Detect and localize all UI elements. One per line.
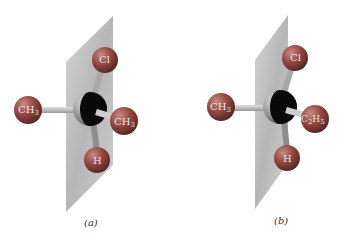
label-text: Cl <box>290 52 301 63</box>
label-subscript-2: 5 <box>320 118 324 126</box>
atom-label-left: CH3 <box>18 105 39 117</box>
label-subscript: 3 <box>226 106 230 114</box>
label-text: C <box>301 114 308 124</box>
center-shadow <box>270 90 297 124</box>
label-text: CH <box>210 101 226 112</box>
atom-label-top: Cl <box>99 55 110 65</box>
label-subscript: 3 <box>130 121 134 129</box>
atom-label-right: CH3 <box>114 117 135 129</box>
caption-a: (a) <box>84 217 98 228</box>
atom-label-top: Cl <box>290 53 301 63</box>
atom-label-bottom: H <box>283 154 292 164</box>
atom-label-left: CH3 <box>210 102 231 114</box>
label-text: H <box>93 155 102 166</box>
label-text: CH <box>114 116 130 127</box>
molecule-a-graphic <box>0 0 171 242</box>
atom-label-right: C2H5 <box>301 115 325 126</box>
label-subscript: 3 <box>34 109 38 117</box>
molecule-panel-b: Cl CH3 C2H5 H (b) <box>171 0 342 242</box>
label-text: CH <box>18 104 34 115</box>
label-text: Cl <box>99 54 110 65</box>
molecule-panel-a: Cl CH3 CH3 H (a) <box>0 0 171 242</box>
caption-b: (b) <box>274 215 288 226</box>
label-text: H <box>283 153 292 164</box>
atom-label-bottom: H <box>93 156 102 166</box>
